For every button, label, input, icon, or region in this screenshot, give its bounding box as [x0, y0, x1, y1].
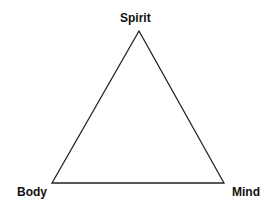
label-spirit: Spirit	[120, 12, 151, 24]
label-body: Body	[17, 186, 47, 198]
triangle-diagram	[0, 0, 270, 204]
label-mind: Mind	[232, 186, 260, 198]
triangle	[52, 31, 224, 183]
